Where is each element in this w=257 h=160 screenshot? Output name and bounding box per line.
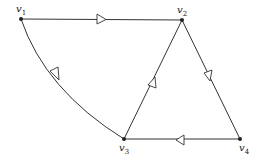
node-v3 [122,137,126,141]
node-label-v2: v2 [177,5,187,18]
node-v1 [19,17,23,21]
arrow-icon-v1-v2 [97,14,106,24]
node-label-sub: 4 [245,148,249,156]
edge-v1-v3 [21,19,124,139]
node-label-sub: 1 [22,9,26,17]
graph-diagram: v1 v2 v3 v4 [0,0,257,160]
node-v4 [238,137,242,141]
node-label-v3: v3 [119,143,129,156]
node-v2 [180,18,184,22]
node-label-v4: v4 [239,143,249,156]
arrow-icon-v1-v3 [50,67,59,80]
edge-v2-v4 [182,20,240,139]
node-label-v1: v1 [16,4,26,17]
graph-edges [0,0,257,160]
arrow-icon-v4-v3 [176,135,184,145]
node-label-sub: 2 [183,10,187,18]
node-label-sub: 3 [125,148,129,156]
